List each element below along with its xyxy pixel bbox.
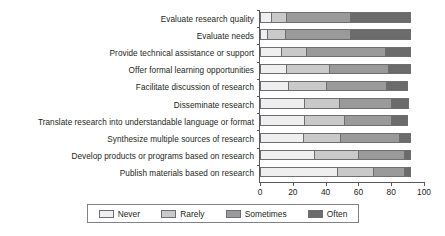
y-axis-tick <box>257 79 260 80</box>
chart-row: Disseminate research <box>260 96 424 113</box>
bar-segment-rarely <box>314 150 358 160</box>
chart-row: Facilitate discussion of research <box>260 79 424 96</box>
bar-segment-rarely <box>281 47 306 57</box>
stacked-bar <box>260 81 408 91</box>
bar-segment-rarely <box>288 81 326 91</box>
bar-segment-sometimes <box>373 167 404 177</box>
bar-segment-never <box>260 81 288 91</box>
bar-segment-often <box>350 29 411 39</box>
chart-row: Evaluate needs <box>260 27 424 44</box>
bar-segment-sometimes <box>285 29 351 39</box>
bar-segment-sometimes <box>326 81 387 91</box>
bar-segment-never <box>260 115 304 125</box>
legend-swatch-icon <box>308 210 323 218</box>
y-axis-tick <box>257 27 260 28</box>
category-label: Translate research into understandable l… <box>38 117 254 126</box>
bar-segment-sometimes <box>358 150 404 160</box>
legend-swatch-icon <box>161 210 176 218</box>
bar-segment-never <box>260 64 286 74</box>
category-label: Synthesize multiple sources of research <box>107 134 254 143</box>
legend-label: Often <box>327 209 347 219</box>
legend-item-often: Often <box>308 209 347 219</box>
stacked-bar <box>260 29 411 39</box>
bar-segment-often <box>386 81 407 91</box>
legend-label: Never <box>118 209 140 219</box>
bar-segment-never <box>260 150 314 160</box>
y-axis-tick <box>257 62 260 63</box>
x-axis-tick-label: 20 <box>278 187 308 197</box>
bar-segment-rarely <box>267 29 285 39</box>
stacked-bar <box>260 150 411 160</box>
bar-segment-often <box>404 167 411 177</box>
bar-segment-often <box>391 98 409 108</box>
bar-segment-sometimes <box>340 133 399 143</box>
x-axis-tick-label: 40 <box>311 187 341 197</box>
x-axis-tick-label: 100 <box>409 187 439 197</box>
stacked-bar-chart: Evaluate research qualityEvaluate needsP… <box>0 0 445 236</box>
bar-segment-never <box>260 98 304 108</box>
bar-segment-never <box>260 47 281 57</box>
y-axis-tick <box>257 148 260 149</box>
y-axis-tick <box>257 113 260 114</box>
plot-area: Evaluate research qualityEvaluate needsP… <box>260 10 424 182</box>
legend-label: Sometimes <box>245 209 287 219</box>
legend-item-sometimes: Sometimes <box>226 209 287 219</box>
bar-segment-rarely <box>304 98 338 108</box>
x-axis-tick <box>293 182 294 186</box>
stacked-bar <box>260 98 409 108</box>
legend-label: Rarely <box>180 209 204 219</box>
category-label: Publish materials based on research <box>120 169 254 178</box>
bar-segment-never <box>260 167 337 177</box>
category-label: Facilitate discussion of research <box>136 83 254 92</box>
category-label: Disseminate research <box>174 100 254 109</box>
category-label: Provide technical assistance or support <box>110 48 254 57</box>
legend-item-rarely: Rarely <box>161 209 204 219</box>
x-axis-line <box>259 182 425 183</box>
y-axis-tick <box>257 96 260 97</box>
bar-segment-often <box>391 115 407 125</box>
stacked-bar <box>260 47 411 57</box>
chart-row: Synthesize multiple sources of research <box>260 130 424 147</box>
x-axis-tick <box>326 182 327 186</box>
bar-segment-never <box>260 133 303 143</box>
bar-segment-often <box>388 64 411 74</box>
stacked-bar <box>260 12 411 22</box>
bar-segment-often <box>404 150 411 160</box>
legend-swatch-icon <box>99 210 114 218</box>
x-axis-tick-label: 80 <box>376 187 406 197</box>
bar-segment-sometimes <box>339 98 391 108</box>
y-axis-tick <box>257 10 260 11</box>
bar-segment-sometimes <box>344 115 392 125</box>
x-axis-tick <box>260 182 261 186</box>
legend-item-never: Never <box>99 209 140 219</box>
x-axis-tick <box>358 182 359 186</box>
bar-segment-sometimes <box>306 47 385 57</box>
bar-segment-sometimes <box>329 64 388 74</box>
stacked-bar <box>260 64 411 74</box>
chart-row: Publish materials based on research <box>260 165 424 182</box>
bar-segment-often <box>385 47 411 57</box>
bar-segment-rarely <box>271 12 286 22</box>
chart-row: Develop products or programs based on re… <box>260 148 424 165</box>
category-label: Offer formal learning opportunities <box>129 66 254 75</box>
chart-row: Provide technical assistance or support <box>260 44 424 61</box>
chart-row: Evaluate research quality <box>260 10 424 27</box>
y-axis-tick <box>257 165 260 166</box>
chart-legend: NeverRarelySometimesOften <box>87 204 359 223</box>
x-axis-tick <box>424 182 425 186</box>
bar-segment-sometimes <box>286 12 350 22</box>
chart-row: Translate research into understandable l… <box>260 113 424 130</box>
y-axis-tick <box>257 44 260 45</box>
x-axis-tick-label: 60 <box>343 187 373 197</box>
bar-segment-rarely <box>337 167 373 177</box>
category-label: Evaluate needs <box>197 31 254 40</box>
stacked-bar <box>260 115 408 125</box>
chart-row: Offer formal learning opportunities <box>260 62 424 79</box>
bar-segment-never <box>260 12 271 22</box>
category-label: Develop products or programs based on re… <box>71 152 254 161</box>
bar-segment-rarely <box>304 115 343 125</box>
stacked-bar <box>260 133 411 143</box>
y-axis-tick <box>257 130 260 131</box>
stacked-bar <box>260 167 411 177</box>
bar-segment-often <box>399 133 410 143</box>
